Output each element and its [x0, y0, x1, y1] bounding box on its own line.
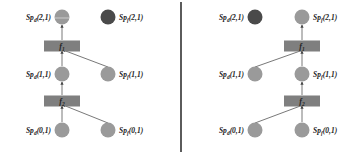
spf-2-node — [101, 10, 116, 25]
left-panel: f1f2Spd(2,1)Spf(2,1)Spd(1,1)Spf(1,1)Spd(… — [26, 10, 144, 138]
spd-0-node — [55, 123, 70, 138]
spf-2-label: Spf(2,1) — [313, 13, 338, 23]
spf-1-node — [101, 67, 116, 82]
spd-1-label: Spd(1,1) — [26, 70, 52, 80]
state-transition-diagram: f1f2Spd(2,1)Spf(2,1)Spd(1,1)Spf(1,1)Spd(… — [0, 0, 362, 156]
spf-2-label: Spf(2,1) — [119, 13, 144, 23]
edge-cross1-to-f1 — [63, 50, 108, 67]
edge-cross0-to-f2 — [63, 105, 108, 123]
spd-2-node — [55, 10, 70, 25]
edge-cross0-to-f2 — [255, 105, 303, 123]
spf-0-node — [101, 123, 116, 138]
spd-1-node — [55, 67, 70, 82]
spd-1-label: Spd(1,1) — [219, 70, 245, 80]
spf-0-label: Spf(0,1) — [119, 126, 144, 136]
spf-2-node — [295, 10, 310, 25]
spd-0-label: Spd(0,1) — [26, 126, 52, 136]
edge-cross1-to-f1 — [255, 50, 303, 67]
spd-2-label: Spd(2,1) — [26, 13, 52, 23]
spd-0-node — [248, 123, 263, 138]
spf-1-label: Spf(1,1) — [313, 70, 338, 80]
spd-2-label: Spd(2,1) — [219, 13, 245, 23]
spf-1-node — [295, 67, 310, 82]
right-panel: f1f2Spd(2,1)Spf(2,1)Spd(1,1)Spf(1,1)Spd(… — [219, 10, 338, 138]
spd-2-node — [248, 10, 263, 25]
spd-0-label: Spd(0,1) — [219, 126, 245, 136]
spf-1-label: Spf(1,1) — [119, 70, 144, 80]
spf-0-label: Spf(0,1) — [313, 126, 338, 136]
spf-0-node — [295, 123, 310, 138]
spd-1-node — [248, 67, 263, 82]
